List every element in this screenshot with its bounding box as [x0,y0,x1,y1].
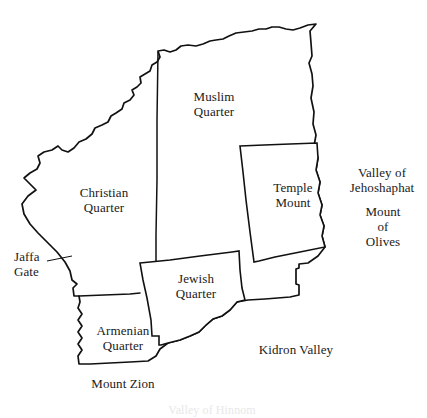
label-jaffa-gate-line2: Gate [14,265,50,280]
label-valley-of-hinnom-line1: Valley of Hinnom [152,404,272,418]
label-temple-mount: Temple Mount [261,181,325,211]
label-muslim-quarter: Muslim Quarter [178,90,250,120]
label-muslim-quarter-line1: Muslim [178,90,250,105]
label-christian-quarter-line1: Christian [65,186,143,201]
label-valley-of-jehoshaphat: Valley of Jehoshaphat [340,166,424,196]
label-jewish-quarter-line1: Jewish [160,272,232,287]
label-armenian-quarter-line1: Armenian [84,324,162,339]
label-mount-of-olives-line1: Mount [352,205,414,220]
label-kidron-valley-line1: Kidron Valley [251,343,341,358]
label-jaffa-gate: Jaffa Gate [14,250,50,280]
label-kidron-valley: Kidron Valley [251,343,341,358]
label-mount-of-olives-line3: Olives [352,235,414,250]
label-armenian-quarter-line2: Quarter [84,339,162,354]
label-christian-quarter: Christian Quarter [65,186,143,216]
label-muslim-quarter-line2: Quarter [178,105,250,120]
label-mount-zion: Mount Zion [79,377,167,392]
label-armenian-quarter: Armenian Quarter [84,324,162,354]
label-jewish-quarter-line2: Quarter [160,287,232,302]
label-mount-of-olives-line2: of [352,220,414,235]
label-temple-mount-line1: Temple [261,181,325,196]
label-valley-of-jehoshaphat-line1: Valley of [340,166,424,181]
label-jaffa-gate-line1: Jaffa [14,250,50,265]
label-mount-zion-line1: Mount Zion [79,377,167,392]
label-jewish-quarter: Jewish Quarter [160,272,232,302]
label-mount-of-olives: Mount of Olives [352,205,414,249]
label-valley-of-jehoshaphat-line2: Jehoshaphat [340,181,424,196]
label-temple-mount-line2: Mount [261,196,325,211]
label-valley-of-hinnom: Valley of Hinnom [152,404,272,418]
label-christian-quarter-line2: Quarter [65,201,143,216]
